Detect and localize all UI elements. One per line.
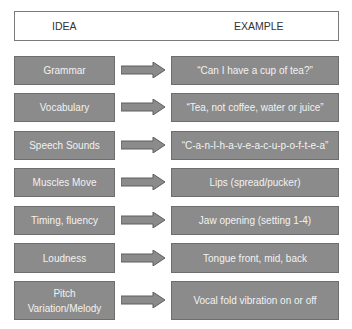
arrow-right-icon (121, 292, 165, 308)
arrow-right-icon (121, 250, 165, 266)
arrow-right-icon (121, 137, 165, 153)
arrow-right-icon (121, 212, 165, 228)
example-box-speech-sounds: “C-a-n-I-h-a-v-e-a-c-u-p-o-f-t-e-a” (171, 131, 339, 160)
example-box-grammar: “Can I have a cup of tea?” (171, 56, 339, 85)
example-box-muscles-move: Lips (spread/pucker) (171, 168, 339, 197)
column-header: IDEA EXAMPLE (14, 11, 339, 41)
idea-column-label: IDEA (52, 20, 77, 32)
idea-box-timing-fluency: Timing, fluency (14, 206, 115, 235)
arrow-right-icon (121, 99, 165, 115)
arrow-right-icon (121, 174, 165, 190)
idea-box-vocabulary: Vocabulary (14, 93, 115, 122)
example-box-vocabulary: “Tea, not coffee, water or juice” (171, 93, 339, 122)
example-box-loudness: Tongue front, mid, back (171, 243, 339, 273)
idea-box-grammar: Grammar (14, 56, 115, 85)
example-box-timing-fluency: Jaw opening (setting 1-4) (171, 206, 339, 235)
example-box-pitch-variation: Vocal fold vibration on or off (171, 281, 339, 320)
idea-box-speech-sounds: Speech Sounds (14, 131, 115, 160)
idea-box-loudness: Loudness (14, 243, 115, 273)
arrow-right-icon (121, 62, 165, 78)
example-column-label: EXAMPLE (234, 20, 284, 32)
idea-box-muscles-move: Muscles Move (14, 168, 115, 197)
idea-box-pitch-variation: Pitch Variation/Melody (14, 281, 115, 320)
